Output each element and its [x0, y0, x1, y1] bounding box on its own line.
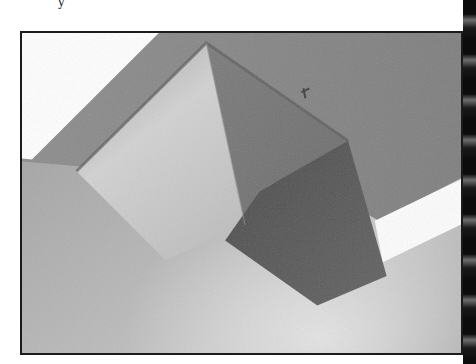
page-text-fragment: y	[58, 0, 65, 8]
photograph-frame	[20, 31, 463, 355]
book-binding-shadow	[463, 0, 476, 364]
cube-photograph	[22, 33, 461, 353]
